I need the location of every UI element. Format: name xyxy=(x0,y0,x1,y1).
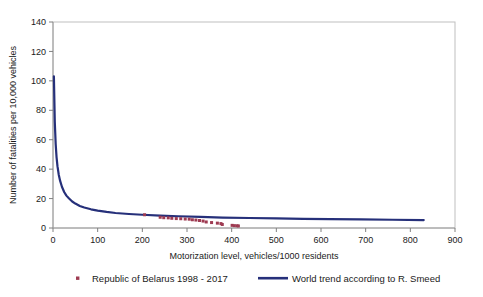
chart-figure: 020406080100120140 010020030040050060070… xyxy=(0,0,483,297)
x-tick-label: 0 xyxy=(50,235,55,245)
data-point xyxy=(167,216,170,219)
x-tick-label: 100 xyxy=(90,235,105,245)
x-tick-label: 400 xyxy=(224,235,239,245)
data-point xyxy=(210,221,213,224)
data-point xyxy=(205,220,208,223)
data-point xyxy=(237,224,240,227)
x-tick-label: 500 xyxy=(269,235,284,245)
y-tick-label: 0 xyxy=(41,223,46,233)
y-tick-label: 60 xyxy=(36,135,46,145)
data-point xyxy=(191,218,194,221)
x-tick-label: 700 xyxy=(358,235,373,245)
data-point xyxy=(162,216,165,219)
y-tick-label: 20 xyxy=(36,194,46,204)
y-tick-label: 140 xyxy=(31,17,46,27)
data-point xyxy=(184,218,187,221)
data-point xyxy=(188,218,191,221)
x-tick-label: 300 xyxy=(179,235,194,245)
x-tick-label: 200 xyxy=(135,235,150,245)
y-tick-label: 40 xyxy=(36,164,46,174)
x-tick-label: 900 xyxy=(447,235,462,245)
data-point xyxy=(233,224,236,227)
data-point xyxy=(221,223,224,226)
y-axis-title: Number of fatalities per 10,000 vehicles xyxy=(8,45,18,204)
data-point xyxy=(179,217,182,220)
legend-label-belarus: Republic of Belarus 1998 - 2017 xyxy=(92,273,228,284)
data-point xyxy=(175,217,178,220)
data-point xyxy=(159,216,162,219)
data-point xyxy=(170,217,173,220)
chart-canvas: 020406080100120140 010020030040050060070… xyxy=(0,0,483,297)
data-point xyxy=(198,219,201,222)
data-point xyxy=(194,219,197,222)
y-tick-label: 100 xyxy=(31,76,46,86)
y-tick-label: 120 xyxy=(31,47,46,57)
data-point xyxy=(143,213,146,216)
data-point xyxy=(202,220,205,223)
x-tick-label: 800 xyxy=(403,235,418,245)
x-tick-label: 600 xyxy=(313,235,328,245)
legend-marker-dot-icon xyxy=(76,277,79,280)
data-point xyxy=(216,222,219,225)
legend-label-world-trend: World trend according to R. Smeed xyxy=(292,273,440,284)
x-axis-title: Motorization level, vehicles/1000 reside… xyxy=(169,251,339,261)
y-tick-label: 80 xyxy=(36,105,46,115)
